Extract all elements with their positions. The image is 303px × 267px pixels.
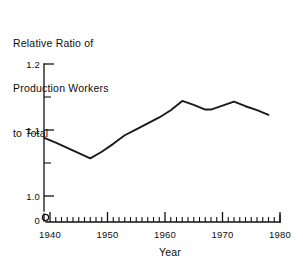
x-tick-label-1960: 1960 [154, 229, 176, 240]
y-tick-label-1-1: 1.1 [26, 125, 40, 136]
x-tick-label-1940: 1940 [39, 229, 61, 240]
data-series-line [44, 101, 268, 158]
chart-figure: Relative Ratio of Production Workers to … [0, 0, 303, 267]
x-tick-label-1950: 1950 [97, 229, 119, 240]
y-tick-label-zero: 0 [35, 215, 40, 226]
x-tick-label-1970: 1970 [212, 229, 234, 240]
axis-break-icon [42, 214, 48, 220]
x-axis-title: Year [159, 246, 181, 258]
y-tick-label-1-0: 1.0 [26, 191, 40, 202]
y-tick-label-1-2: 1.2 [26, 59, 40, 70]
x-tick-label-1980: 1980 [269, 229, 291, 240]
chart-plot-area: 1.2 1.1 1.0 0 [0, 0, 303, 267]
